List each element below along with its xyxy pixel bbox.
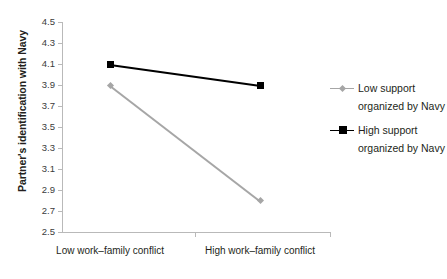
data-point-low-support-high-conflict — [256, 197, 263, 204]
y-tick-3.5: 3.5 — [28, 121, 62, 133]
y-tick-label: 4.5 — [42, 16, 55, 28]
x-tick-mark-middle — [195, 232, 196, 237]
legend-label: High support organized by Navy — [358, 124, 445, 154]
x-tick-mark-right — [330, 232, 331, 237]
data-point-high-support-low-conflict — [107, 61, 114, 68]
y-tick-mark — [58, 211, 62, 212]
series-high-support-line — [110, 64, 260, 87]
chart-legend: Low support organized by Navy High suppo… — [330, 78, 447, 162]
y-tick-label: 4.3 — [42, 37, 55, 49]
y-tick-2.7: 2.7 — [28, 205, 62, 217]
y-tick-label: 2.9 — [42, 184, 55, 196]
y-tick-mark — [58, 85, 62, 86]
square-marker-icon — [339, 126, 347, 134]
y-tick-mark — [58, 64, 62, 65]
y-tick-label: 4.1 — [42, 58, 55, 70]
y-tick-3.9: 3.9 — [28, 79, 62, 91]
y-tick-mark — [58, 43, 62, 44]
y-tick-2.5: 2.5 — [28, 226, 62, 238]
y-axis-line — [62, 22, 63, 233]
legend-item-low-support: Low support organized by Navy — [330, 78, 447, 114]
y-tick-4.5: 4.5 — [28, 16, 62, 28]
diamond-marker-icon — [339, 84, 346, 91]
y-tick-label: 2.5 — [42, 226, 55, 238]
data-point-high-support-high-conflict — [257, 82, 264, 89]
y-tick-mark — [58, 127, 62, 128]
series-low-support-line — [109, 85, 260, 202]
legend-key-low-support — [330, 84, 354, 92]
chart-figure: Partner's identification with Navy 4.5 4… — [0, 0, 447, 279]
legend-label: Low support organized by Navy — [358, 82, 445, 112]
y-tick-label: 3.1 — [42, 163, 55, 175]
x-tick-label-high: High work–family conflict — [185, 244, 335, 258]
y-tick-label: 3.5 — [42, 121, 55, 133]
y-tick-label: 3.9 — [42, 79, 55, 91]
y-tick-label: 2.7 — [42, 205, 55, 217]
y-tick-mark — [58, 148, 62, 149]
y-tick-mark — [58, 190, 62, 191]
x-tick-label-low: Low work–family conflict — [35, 244, 185, 258]
y-axis-title: Partner's identification with Navy — [16, 4, 28, 219]
x-axis-line — [62, 232, 331, 233]
y-tick-mark — [58, 22, 62, 23]
y-tick-4.1: 4.1 — [28, 58, 62, 70]
y-tick-3.3: 3.3 — [28, 142, 62, 154]
y-tick-4.3: 4.3 — [28, 37, 62, 49]
y-tick-mark — [58, 232, 62, 233]
y-tick-label: 3.7 — [42, 100, 55, 112]
y-tick-label: 3.3 — [42, 142, 55, 154]
legend-item-high-support: High support organized by Navy — [330, 120, 447, 156]
legend-key-high-support — [330, 126, 354, 134]
y-tick-mark — [58, 106, 62, 107]
y-tick-2.9: 2.9 — [28, 184, 62, 196]
y-tick-mark — [58, 169, 62, 170]
y-tick-3.1: 3.1 — [28, 163, 62, 175]
y-tick-3.7: 3.7 — [28, 100, 62, 112]
plot-area: 4.5 4.3 4.1 3.9 3.7 3.5 3.3 3.1 — [62, 22, 330, 232]
